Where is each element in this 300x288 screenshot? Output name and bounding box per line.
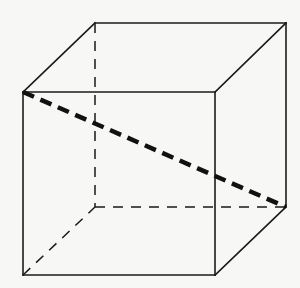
cube-svg (0, 0, 300, 288)
space-diagonal (23, 92, 286, 207)
bottom-left-connector (23, 207, 95, 275)
cube-diagram (0, 0, 300, 288)
top-left-connector (23, 23, 95, 92)
top-right-connector (215, 23, 286, 92)
bottom-right-connector (215, 207, 286, 275)
